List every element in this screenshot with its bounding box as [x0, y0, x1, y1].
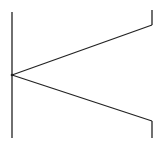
vertex-point [11, 74, 14, 77]
lower-diagonal-line [12, 75, 152, 121]
diagram-canvas [0, 0, 162, 148]
diagram-lines [12, 10, 152, 138]
upper-diagonal-line [12, 25, 152, 75]
